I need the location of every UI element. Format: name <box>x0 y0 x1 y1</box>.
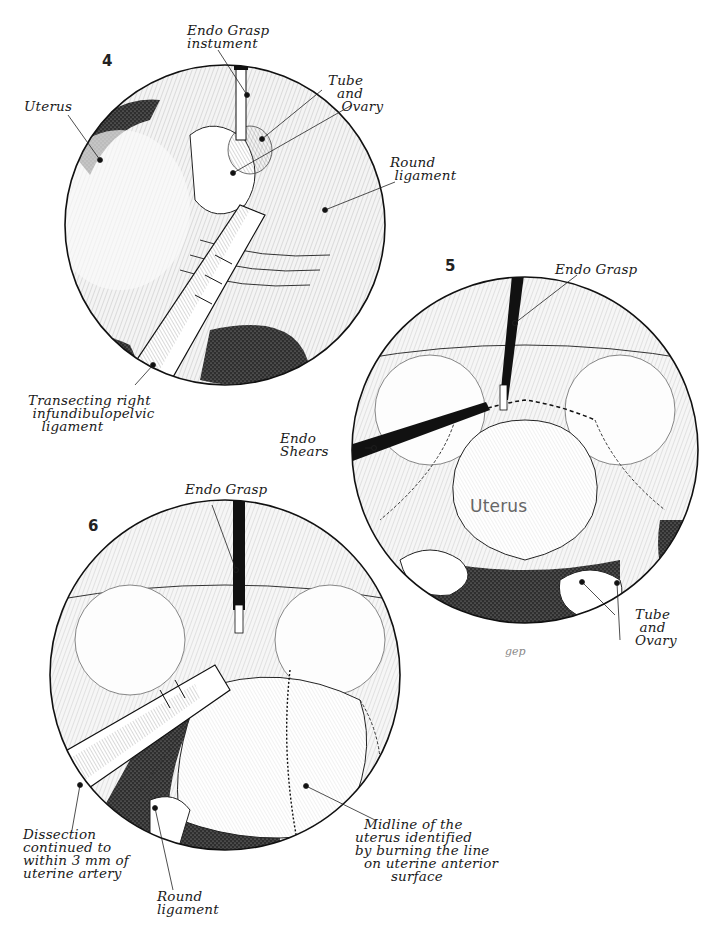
illustration-artwork <box>0 0 715 933</box>
panel-4-number: 4 <box>102 52 112 70</box>
label-endo-grasp: Endo Grasp <box>185 483 267 496</box>
panel-6-number: 6 <box>88 517 98 535</box>
label-endo-grasp-instrument: Endo Grasp instument <box>187 24 269 50</box>
label-round-ligament: Round ligament <box>390 156 456 182</box>
label-uterus: Uterus <box>24 100 72 113</box>
label-uterus-inner: Uterus <box>470 500 527 513</box>
surgical-illustration: 4 5 6 Endo Grasp instument Uterus Tube a… <box>0 0 715 933</box>
panel-6-view <box>50 500 400 860</box>
label-round-ligament: Round ligament <box>157 890 219 916</box>
label-dissection: Dissection continued to within 3 mm of u… <box>23 828 129 880</box>
label-transecting-ligament: Transecting right infundibulopelvic liga… <box>28 394 154 433</box>
panel-5-number: 5 <box>445 257 455 275</box>
artist-signature: gep <box>505 645 526 658</box>
label-midline: Midline of the uterus identified by burn… <box>355 818 498 883</box>
label-tube-and-ovary: Tube and Ovary <box>328 74 383 113</box>
label-tube-and-ovary: Tube and Ovary <box>635 608 677 647</box>
label-endo-grasp: Endo Grasp <box>555 263 637 276</box>
label-endo-shears: Endo Shears <box>280 432 329 458</box>
